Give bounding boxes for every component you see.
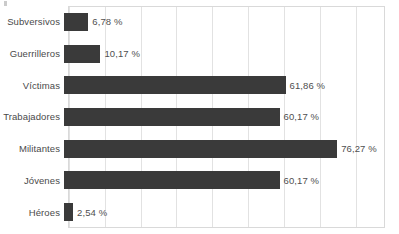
bar-track: 60,17 % xyxy=(64,101,399,133)
bar xyxy=(64,140,337,158)
bar-value-label: 60,17 % xyxy=(284,111,320,122)
category-label: Jóvenes xyxy=(0,175,64,186)
bar xyxy=(64,203,73,221)
category-label: Víctimas xyxy=(0,80,64,91)
bar-value-label: 76,27 % xyxy=(341,143,377,154)
category-label: Guerrilleros xyxy=(0,48,64,59)
bar xyxy=(64,13,88,31)
bar-track: 10,17 % xyxy=(64,38,399,70)
bar-track: 61,86 % xyxy=(64,69,399,101)
bar-row: Subversivos6,78 % xyxy=(0,6,399,38)
bar-row: Guerrilleros10,17 % xyxy=(0,38,399,70)
bar-value-label: 6,78 % xyxy=(92,16,122,27)
bar-value-label: 2,54 % xyxy=(77,207,107,218)
category-label: Subversivos xyxy=(0,16,64,27)
bar-row: Militantes76,27 % xyxy=(0,133,399,165)
bar xyxy=(64,76,286,94)
bar-row: Víctimas61,86 % xyxy=(0,69,399,101)
bar-row: Jóvenes60,17 % xyxy=(0,165,399,197)
bar-track: 76,27 % xyxy=(64,133,399,165)
bar xyxy=(64,108,280,126)
bar-track: 6,78 % xyxy=(64,6,399,38)
bar-value-label: 61,86 % xyxy=(290,80,326,91)
category-label: Militantes xyxy=(0,143,64,154)
bar-rows: Subversivos6,78 %Guerrilleros10,17 %Víct… xyxy=(0,6,399,228)
bar-row: Trabajadores60,17 % xyxy=(0,101,399,133)
bar-track: 60,17 % xyxy=(64,165,399,197)
bar-track: 2,54 % xyxy=(64,196,399,228)
bar-row: Héroes2,54 % xyxy=(0,196,399,228)
bar-value-label: 60,17 % xyxy=(284,175,320,186)
bar xyxy=(64,45,100,63)
horizontal-bar-chart: Subversivos6,78 %Guerrilleros10,17 %Víct… xyxy=(0,0,399,234)
bar xyxy=(64,171,280,189)
bar-value-label: 10,17 % xyxy=(104,48,140,59)
category-label: Héroes xyxy=(0,207,64,218)
category-label: Trabajadores xyxy=(0,111,64,122)
